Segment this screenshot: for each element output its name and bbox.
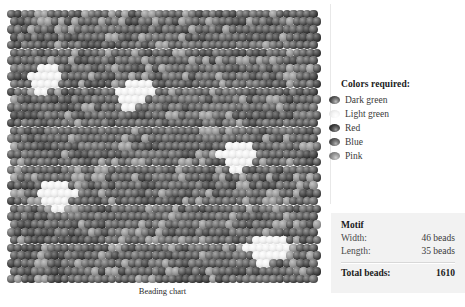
motif-info-panel: Motif Width: 46 beads Length: 35 beads T… <box>331 213 465 293</box>
bead-row <box>8 275 317 283</box>
legend-label: Light green <box>345 109 389 119</box>
bead-row <box>8 111 317 119</box>
panel-divider <box>330 4 331 204</box>
bead-pink-icon <box>329 152 340 160</box>
motif-title: Motif <box>341 220 455 230</box>
bead-row <box>8 197 317 205</box>
bead-row <box>8 119 317 127</box>
chart-caption: Beading chart <box>8 286 317 296</box>
bead-row <box>8 33 317 41</box>
legend-item-pink[interactable]: Pink <box>341 149 461 163</box>
motif-width-row: Width: 46 beads <box>341 232 455 245</box>
legend-label: Red <box>345 123 360 133</box>
total-beads-value: 1610 <box>436 267 455 280</box>
colors-legend: Colors required: Dark green Light green … <box>341 79 461 163</box>
motif-length-value: 35 beads <box>421 245 455 258</box>
motif-width-label: Width: <box>341 232 367 245</box>
legend-label: Blue <box>345 137 363 147</box>
motif-length-label: Length: <box>341 245 371 258</box>
bead-row <box>8 236 317 244</box>
legend-title: Colors required: <box>341 79 461 89</box>
legend-label: Pink <box>345 151 362 161</box>
legend-item-blue[interactable]: Blue <box>341 135 461 149</box>
bead-row <box>8 158 317 166</box>
bead-row <box>8 267 317 275</box>
motif-width-value: 46 beads <box>421 232 455 245</box>
total-beads-label: Total beads: <box>341 267 391 280</box>
total-beads-row: Total beads: 1610 <box>341 267 455 280</box>
bead-row <box>8 41 317 49</box>
legend-item-dark-green[interactable]: Dark green <box>341 93 461 107</box>
beading-chart-page: Beading chart Colors required: Dark gree… <box>0 0 465 307</box>
bead-row <box>8 221 317 229</box>
motif-length-row: Length: 35 beads <box>341 245 455 258</box>
legend-item-red[interactable]: Red <box>341 121 461 135</box>
bead-light-green-icon <box>329 110 340 118</box>
legend-item-light-green[interactable]: Light green <box>341 107 461 121</box>
bead[interactable] <box>309 275 318 284</box>
beading-chart-canvas[interactable] <box>8 10 317 283</box>
bead-row <box>8 143 317 151</box>
bead-grid[interactable] <box>8 10 317 283</box>
bead-row <box>8 65 317 73</box>
bead-blue-icon <box>329 138 340 146</box>
legend-label: Dark green <box>345 95 387 105</box>
bead-red-icon <box>329 124 340 132</box>
bead-row <box>8 189 317 197</box>
info-separator <box>341 262 455 264</box>
bead-dark-green-icon <box>329 96 340 104</box>
bead-row <box>8 80 317 88</box>
